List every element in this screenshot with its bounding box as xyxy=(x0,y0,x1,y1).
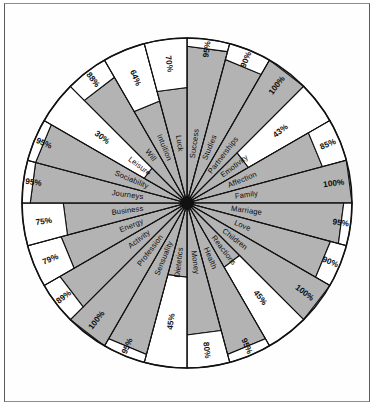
radial-wheel-chart: SuccessStudiesPartnershipsEmotivityAffec… xyxy=(0,0,375,406)
center-hub xyxy=(181,197,194,210)
wheel-svg: SuccessStudiesPartnershipsEmotivityAffec… xyxy=(0,0,375,406)
